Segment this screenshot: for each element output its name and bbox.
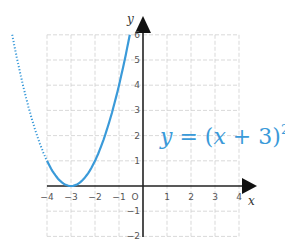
x-tick-label: −1 (112, 192, 125, 202)
x-tick-label: 1 (164, 192, 170, 202)
x-tick-label: −2 (88, 192, 101, 202)
y-axis-label: y (126, 12, 134, 26)
x-tick-label: 4 (236, 192, 242, 202)
parabola-chart: x y −4−3−2−1O1234 654321−1−2 y = (x + 3)… (0, 0, 285, 250)
x-tick-label: O (131, 192, 138, 202)
curve-extension-dotted (12, 35, 47, 161)
x-tick-label: −3 (64, 192, 77, 202)
y-tick-label: −2 (127, 231, 140, 241)
x-axis-arrow-icon (242, 178, 257, 194)
y-tick-label: −1 (127, 206, 140, 216)
x-axis-label: x (248, 194, 255, 208)
y-tick-label: 1 (134, 156, 140, 166)
x-tick-label: 3 (212, 192, 218, 202)
x-tick-label: −4 (40, 192, 54, 202)
y-tick-label: 4 (134, 80, 140, 90)
y-tick-label: 2 (134, 131, 140, 141)
y-tick-label: 3 (134, 105, 140, 115)
y-tick-label: 6 (134, 30, 140, 40)
x-tick-labels: −4−3−2−1O1234 (40, 192, 242, 202)
y-tick-label: 5 (134, 55, 140, 65)
equation-label: y = (x + 3)2 (159, 122, 285, 149)
x-tick-label: 2 (188, 192, 194, 202)
